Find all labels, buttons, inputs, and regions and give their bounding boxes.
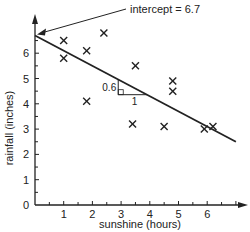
y-tick-label: 1 <box>23 174 29 186</box>
axes <box>32 14 248 208</box>
slope-run-label: 1 <box>132 96 138 107</box>
data-point-x-icon <box>60 55 67 62</box>
data-points <box>60 29 216 132</box>
y-tick-label: 6 <box>23 47 29 59</box>
x-tick-label: 2 <box>89 208 95 220</box>
slope-rise-label: 0.6 <box>102 82 116 93</box>
origin-label: 0 <box>23 199 29 211</box>
x-tick-label: 6 <box>204 208 210 220</box>
data-point-x-icon <box>60 37 67 44</box>
data-point-x-icon <box>201 126 208 133</box>
data-point-x-icon <box>132 62 139 69</box>
intercept-pointer <box>43 9 126 32</box>
data-point-x-icon <box>169 78 176 85</box>
best-fit-line <box>35 35 236 141</box>
data-point-x-icon <box>129 121 136 128</box>
regression-line <box>35 35 236 141</box>
data-point-x-icon <box>100 29 107 36</box>
x-axis-arrow-icon <box>238 202 248 208</box>
data-point-x-icon <box>161 123 168 130</box>
y-axis-arrow-icon <box>32 14 38 24</box>
x-tick-label: 1 <box>61 208 67 220</box>
data-point-x-icon <box>83 98 90 105</box>
annotations: intercept = 6.70.61 <box>37 3 200 107</box>
y-tick-label: 3 <box>23 123 29 135</box>
data-point-x-icon <box>169 88 176 95</box>
intercept-label: intercept = 6.7 <box>130 3 200 15</box>
data-point-x-icon <box>83 47 90 54</box>
intercept-arrow-icon <box>37 28 46 35</box>
y-tick-label: 5 <box>23 73 29 85</box>
x-axis-title: sunshine (hours) <box>99 218 181 230</box>
y-tick-label: 2 <box>23 148 29 160</box>
y-axis-title: rainfall (inches) <box>3 91 15 166</box>
y-tick-label: 4 <box>23 98 29 110</box>
scatter-chart: 1234560123456 intercept = 6.70.61 sunshi… <box>0 0 250 232</box>
right-angle-icon <box>118 90 123 95</box>
